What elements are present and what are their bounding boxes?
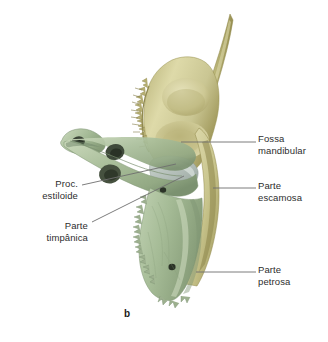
articular-eminence-shadow [167, 89, 205, 115]
label-parte-petrosa: Parte petrosa [258, 264, 290, 287]
anatomy-figure: Fossa mandibular Parte escamosa Parte pe… [0, 0, 328, 342]
label-fossa-mandibular: Fossa mandibular [258, 133, 306, 156]
temporal-bone-illustration [0, 0, 328, 342]
label-proc-estiloide: Proc. estiloide [6, 178, 78, 201]
petrous-part-group [61, 129, 203, 308]
mastoid-emissary-foramen [168, 264, 175, 270]
label-parte-timpanica: Parte timpânica [16, 220, 88, 243]
figure-caption: b [0, 308, 254, 319]
label-parte-escamosa: Parte escamosa [258, 180, 302, 203]
